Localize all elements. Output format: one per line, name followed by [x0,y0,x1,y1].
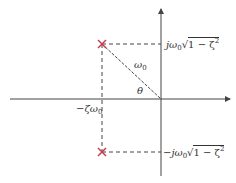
angle-label: θ [137,86,143,96]
upper-imag-label: jω0√1 − ζ2 [166,38,219,52]
real-part-label: −ζω0 [76,104,102,116]
magnitude-label: ω0 [134,60,147,72]
pole-diagram: jω0√1 − ζ2 −jω0√1 − ζ2 −ζω0 ω0 θ [0,0,236,183]
lower-imag-label: −jω0√1 − ζ2 [163,146,224,160]
omega0-radius [102,44,161,99]
